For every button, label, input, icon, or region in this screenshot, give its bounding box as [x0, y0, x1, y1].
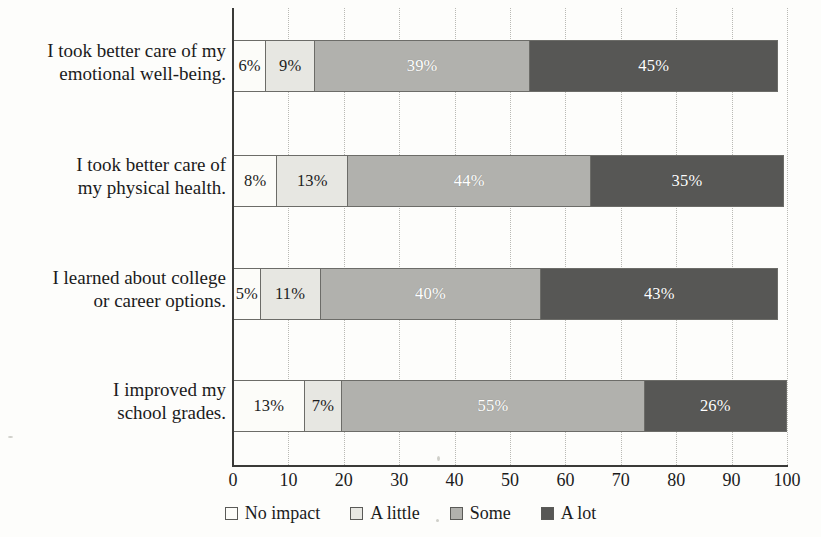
category-label-physical-health: I took better care of my physical health…: [4, 153, 226, 199]
bar-segment-value: 55%: [478, 398, 509, 415]
bar-segment-some[interactable]: 44%: [347, 155, 591, 207]
bar-row-physical-health: 8%13%44%35%: [233, 155, 787, 207]
bar-segment-a-lot[interactable]: 35%: [590, 155, 784, 207]
legend-item-a-lot[interactable]: A lot: [541, 503, 597, 524]
legend-label: A lot: [561, 503, 597, 524]
bar-segment-value: 43%: [644, 286, 675, 303]
category-axis-labels: I took better care of my emotional well-…: [0, 0, 226, 470]
bar-segment-value: 26%: [700, 398, 731, 415]
bar-segment-value: 35%: [672, 173, 703, 190]
bar-segment-no-impact[interactable]: 13%: [233, 380, 305, 432]
category-label-line: I learned about college: [4, 266, 226, 289]
bar-segment-a-lot[interactable]: 43%: [540, 268, 778, 320]
chart-page: I took better care of my emotional well-…: [0, 0, 821, 537]
x-tick-label-100: 100: [774, 470, 801, 491]
x-tick-label-70: 70: [612, 470, 630, 491]
bar-segment-a-little[interactable]: 13%: [276, 155, 348, 207]
x-tick-label-0: 0: [229, 470, 238, 491]
legend-label: A little: [370, 503, 420, 524]
x-tick-label-40: 40: [446, 470, 464, 491]
bar-segment-a-lot[interactable]: 26%: [644, 380, 787, 432]
plot-area: 6%9%39%45%8%13%44%35%5%11%40%43%13%7%55%…: [233, 8, 787, 465]
bar-segment-value: 6%: [238, 58, 260, 75]
bar-segment-value: 7%: [312, 398, 334, 415]
x-tick-label-60: 60: [556, 470, 574, 491]
x-tick-label-90: 90: [723, 470, 741, 491]
legend-label: Some: [470, 503, 511, 524]
legend-label: No impact: [245, 503, 320, 524]
bar-segment-a-little[interactable]: 11%: [260, 268, 321, 320]
legend-item-a-little[interactable]: A little: [350, 503, 420, 524]
x-tick-label-30: 30: [390, 470, 408, 491]
category-label-line: I took better care of: [4, 153, 226, 176]
x-axis-line: [232, 465, 788, 467]
bar-segment-value: 45%: [638, 58, 669, 75]
bar-segment-a-little[interactable]: 9%: [265, 40, 315, 92]
bar-segment-some[interactable]: 39%: [314, 40, 530, 92]
bar-segment-no-impact[interactable]: 5%: [233, 268, 261, 320]
bar-segment-value: 44%: [454, 173, 485, 190]
x-tick-label-50: 50: [501, 470, 519, 491]
bar-segment-value: 39%: [407, 58, 438, 75]
y-axis-line: [232, 8, 234, 466]
bar-segment-value: 13%: [297, 173, 328, 190]
bar-segment-value: 11%: [275, 286, 305, 303]
category-label-college-career: I learned about college or career option…: [4, 266, 226, 312]
x-tick-label-10: 10: [279, 470, 297, 491]
category-label-line: or career options.: [4, 289, 226, 312]
legend-item-no-impact[interactable]: No impact: [225, 503, 320, 524]
x-axis-tick-labels: 0102030405060708090100: [233, 470, 787, 498]
chart-legend: No impactA littleSomeA lot: [0, 503, 821, 524]
category-label-line: emotional well-being.: [4, 62, 226, 85]
gridline-100: [787, 8, 788, 465]
bar-row-college-career: 5%11%40%43%: [233, 268, 787, 320]
bar-segment-a-lot[interactable]: 45%: [529, 40, 778, 92]
category-label-line: my physical health.: [4, 176, 226, 199]
legend-swatch-icon: [350, 507, 363, 520]
x-tick-label-20: 20: [335, 470, 353, 491]
bar-row-school-grades: 13%7%55%26%: [233, 380, 787, 432]
legend-item-some[interactable]: Some: [450, 503, 511, 524]
legend-swatch-icon: [225, 507, 238, 520]
bar-segment-value: 5%: [236, 286, 258, 303]
bar-segment-no-impact[interactable]: 8%: [233, 155, 277, 207]
bar-segment-no-impact[interactable]: 6%: [233, 40, 266, 92]
bar-segment-some[interactable]: 55%: [341, 380, 644, 432]
bar-segment-value: 9%: [279, 58, 301, 75]
legend-swatch-icon: [541, 507, 554, 520]
category-label-school-grades: I improved my school grades.: [4, 378, 226, 424]
category-label-line: I improved my: [4, 378, 226, 401]
bar-segment-value: 13%: [253, 398, 284, 415]
legend-swatch-icon: [450, 507, 463, 520]
bar-segment-some[interactable]: 40%: [320, 268, 542, 320]
category-label-line: school grades.: [4, 401, 226, 424]
bar-segment-a-little[interactable]: 7%: [304, 380, 343, 432]
category-label-line: I took better care of my: [4, 39, 226, 62]
bar-segment-value: 8%: [244, 173, 266, 190]
bar-row-emotional-wellbeing: 6%9%39%45%: [233, 40, 787, 92]
bar-segment-value: 40%: [415, 286, 446, 303]
category-label-emotional-wellbeing: I took better care of my emotional well-…: [4, 39, 226, 85]
x-tick-label-80: 80: [667, 470, 685, 491]
